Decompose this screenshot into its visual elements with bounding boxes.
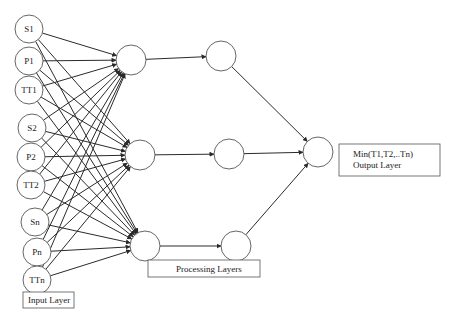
input-node-pn: Pn [23, 238, 51, 266]
input-node-p2: P2 [17, 143, 45, 171]
output-node [303, 137, 333, 167]
node-circle [125, 140, 155, 170]
node-circle [303, 137, 333, 167]
edge-TTn-H1c [50, 251, 130, 276]
edge-S1-H1a [42, 33, 116, 56]
node-circle [116, 45, 146, 75]
neural-network-diagram: S1P1TT1S2P2TT2SnPnTTn Input Layer Proces… [0, 0, 455, 326]
input-node-ttn: TTn [23, 266, 51, 294]
node-circle [206, 41, 236, 71]
edge-TT1-H1c [37, 101, 136, 234]
processing-layers-box: Processing Layers [148, 260, 260, 277]
input-node-s2: S2 [18, 114, 46, 142]
input-node-s1: S1 [15, 15, 43, 43]
edge-Sn-H1c [49, 225, 131, 243]
hidden1-node-2 [125, 140, 155, 170]
node-label: TT2 [23, 180, 39, 190]
node-label: S2 [27, 123, 37, 133]
node-label: P1 [24, 56, 34, 66]
input-node-tt2: TT2 [17, 171, 45, 199]
hidden2-node-1 [206, 41, 236, 71]
edge-H1a-H2a [146, 57, 206, 60]
node-label: Sn [30, 217, 40, 227]
input-node-p1: P1 [15, 47, 43, 75]
input-node-sn: Sn [21, 208, 49, 236]
connection-edges [36, 33, 309, 276]
edge-P1-H1a [43, 60, 116, 61]
edge-P2-H1b [45, 155, 125, 156]
edge-TT2-H1c [43, 192, 131, 239]
hidden2-node-2 [214, 139, 244, 169]
node-label: Pn [32, 247, 42, 257]
node-label: S1 [24, 24, 34, 34]
edge-TT2-H1b [44, 159, 125, 181]
hidden2-node-3 [221, 231, 251, 261]
hidden1-node-1 [116, 45, 146, 75]
processing-layers-label: Processing Layers [176, 264, 242, 274]
node-circle [221, 231, 251, 261]
edge-P1-H1c [36, 73, 137, 233]
input-node-tt1: TT1 [15, 76, 43, 104]
output-layer-label: Output Layer [353, 160, 401, 170]
edge-P2-H1a [41, 70, 120, 147]
input-layer-label: Input Layer [28, 295, 70, 305]
edge-H1b-H2b [155, 154, 214, 155]
input-layer-box: Input Layer [23, 292, 74, 308]
output-layer-box: Min(T1,T2,..Tn) Output Layer [339, 144, 440, 176]
edge-P1-H1b [40, 70, 129, 145]
node-label: TTn [29, 275, 45, 285]
node-label: TT1 [21, 85, 37, 95]
node-circle [214, 139, 244, 169]
node-label: P2 [26, 152, 36, 162]
hidden1-node-3 [130, 231, 160, 261]
edge-H2a-O [232, 67, 308, 142]
output-formula-label: Min(T1,T2,..Tn) [353, 149, 413, 159]
edge-H2b-O [244, 152, 303, 153]
node-circle [130, 231, 160, 261]
edge-H2c-O [246, 163, 308, 234]
